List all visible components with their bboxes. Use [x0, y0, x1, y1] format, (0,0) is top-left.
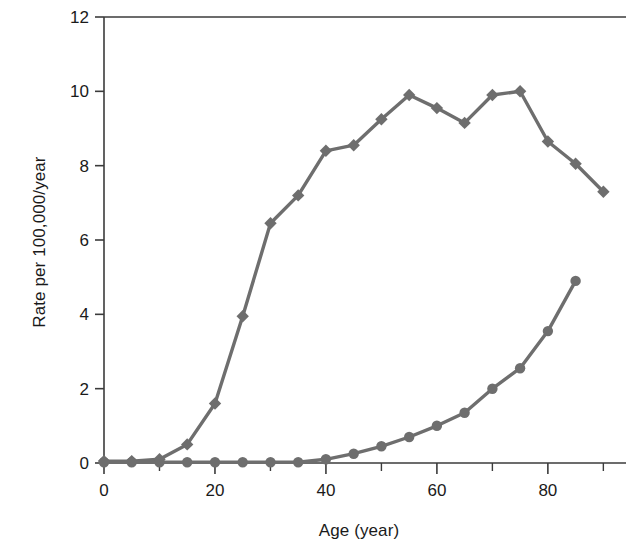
x-axis-tick-label: 60: [427, 481, 446, 500]
data-point-circle: [210, 457, 220, 467]
x-axis-tick-label: 20: [206, 481, 225, 500]
data-point-circle: [543, 326, 553, 336]
data-point-circle: [432, 421, 442, 431]
data-point-circle: [265, 457, 275, 467]
data-point-circle: [404, 432, 414, 442]
y-axis-tick-label: 10: [70, 82, 89, 101]
data-point-circle: [570, 276, 580, 286]
y-axis-title: Rate per 100,000/year: [30, 127, 50, 357]
data-point-circle: [99, 457, 109, 467]
x-axis-title: Age (year): [104, 521, 614, 541]
data-point-circle: [182, 457, 192, 467]
data-point-circle: [459, 408, 469, 418]
data-point-circle: [376, 441, 386, 451]
data-line-circle: [104, 281, 576, 462]
y-axis-tick-label: 6: [80, 231, 89, 250]
data-point-circle: [487, 384, 497, 394]
data-point-circle: [127, 457, 137, 467]
x-axis-tick-label: 40: [316, 481, 335, 500]
data-point-circle: [349, 449, 359, 459]
data-point-diamond: [237, 310, 249, 322]
y-axis-tick-label: 0: [80, 454, 89, 473]
data-point-circle: [321, 454, 331, 464]
x-axis-tick-label: 0: [99, 481, 108, 500]
data-point-circle: [238, 457, 248, 467]
y-axis-tick-label: 4: [80, 305, 89, 324]
chart-plot-area: 024681012020406080: [0, 0, 626, 555]
data-point-diamond: [431, 102, 443, 114]
y-axis-tick-label: 12: [70, 8, 89, 27]
x-axis-tick-label: 80: [538, 481, 557, 500]
data-point-circle: [515, 363, 525, 373]
y-axis-tick-label: 8: [80, 157, 89, 176]
chart-figure: 024681012020406080 Rate per 100,000/year…: [0, 0, 626, 555]
data-point-circle: [293, 457, 303, 467]
y-axis-tick-label: 2: [80, 380, 89, 399]
data-point-circle: [154, 457, 164, 467]
